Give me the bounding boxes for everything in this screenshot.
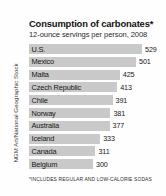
chart-content: Consumption of carbonates* 12-ounce serv… [15, 0, 166, 196]
bar-value-label: 377 [113, 122, 125, 130]
bar [29, 44, 142, 55]
bar-row: Iceland333 [29, 134, 166, 145]
bar-row: Mexico501 [29, 57, 166, 68]
bar-category-label: U.S. [32, 46, 46, 54]
bar-value-label: 381 [113, 110, 125, 118]
bar-value-label: 425 [123, 71, 135, 79]
bar-row: Australia377 [29, 121, 166, 132]
bar-category-label: Malta [32, 71, 49, 79]
bar-row: Norway381 [29, 108, 166, 119]
consumption-of-carbonates-chart: NGM Art/National Geographic Stock Consum… [0, 0, 166, 196]
bar-row: Czech Republic413 [29, 82, 166, 93]
bar-category-label: Norway [32, 110, 56, 118]
bar-plot-area: U.S.529Mexico501Malta425Czech Republic41… [29, 44, 166, 172]
bar-category-label: Czech Republic [32, 84, 82, 92]
chart-footnote: *INCLUDES REGULAR AND LOW-CALORIE SODAS [29, 177, 152, 182]
bar-value-label: 333 [103, 135, 115, 143]
bar-row: Chile391 [29, 95, 166, 106]
bar-category-label: Australia [32, 122, 59, 130]
bar-value-label: 501 [139, 58, 151, 66]
bar-value-label: 311 [98, 148, 109, 156]
bar-category-label: Chile [32, 97, 48, 105]
bar-value-label: 391 [116, 97, 128, 105]
bar-value-label: 529 [145, 46, 157, 54]
chart-subtitle: 12-ounce servings per person, 2008 [29, 30, 147, 39]
bar-category-label: Belgium [32, 161, 58, 169]
bar-row: Belgium300 [29, 159, 166, 170]
bar-category-label: Mexico [32, 58, 55, 66]
bar-row: Malta425 [29, 70, 166, 81]
bar-row: U.S.529 [29, 44, 166, 55]
bar-value-label: 413 [120, 84, 132, 92]
bar-row: Canada311 [29, 146, 166, 157]
chart-title: Consumption of carbonates* [29, 18, 153, 29]
bar-value-label: 300 [96, 161, 108, 169]
bar-category-label: Iceland [32, 135, 55, 143]
bar-category-label: Canada [32, 148, 57, 156]
